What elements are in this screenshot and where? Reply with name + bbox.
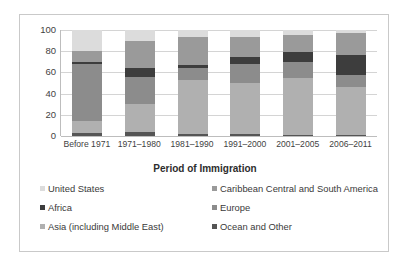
legend-item[interactable]: Caribbean Central and South America (212, 183, 378, 194)
bar-column[interactable] (178, 30, 208, 136)
bar-segment[interactable] (336, 87, 366, 135)
legend-label: Asia (including Middle East) (48, 221, 164, 232)
bar-segment[interactable] (230, 83, 260, 134)
bar-segment[interactable] (230, 134, 260, 136)
y-axis-tick: 80 (45, 46, 56, 56)
chart-legend: United StatesCaribbean Central and South… (36, 183, 380, 241)
bar-column[interactable] (230, 30, 260, 136)
y-axis-tick: 20 (45, 110, 56, 120)
bar-segment[interactable] (283, 78, 313, 135)
bar-segment[interactable] (283, 62, 313, 78)
bar-column[interactable] (336, 30, 366, 136)
bar-segment[interactable] (178, 68, 208, 80)
x-axis-tick: 2001–2005 (275, 139, 321, 153)
bar-column[interactable] (72, 30, 102, 136)
bar-segment[interactable] (72, 30, 102, 51)
bar-segment[interactable] (125, 41, 155, 69)
bar-segment[interactable] (178, 80, 208, 134)
plot-area-wrapper: 100806040200 (20, 15, 390, 147)
legend-label: Europe (220, 202, 250, 213)
legend-label: Ocean and Other (220, 221, 292, 232)
bar-segment[interactable] (178, 134, 208, 136)
legend-item[interactable]: Africa (40, 202, 72, 213)
y-axis-tick: 0 (51, 131, 56, 141)
bar-segment[interactable] (230, 37, 260, 56)
x-axis-title: Period of Immigration (20, 163, 390, 174)
bar-segment[interactable] (336, 55, 366, 74)
legend-item[interactable]: Europe (212, 202, 250, 213)
bar-segment[interactable] (125, 77, 155, 105)
x-axis-tick-labels: Before 19711971–19801981–19901991–200020… (60, 139, 377, 153)
bar-segment[interactable] (336, 33, 366, 55)
legend-swatch-icon (40, 186, 45, 191)
legend-swatch-icon (40, 205, 45, 210)
legend-item[interactable]: Ocean and Other (212, 221, 292, 232)
bar-segment[interactable] (230, 30, 260, 37)
bar-segment[interactable] (283, 35, 313, 52)
bar-segment[interactable] (72, 133, 102, 136)
y-axis-tick-labels: 100806040200 (26, 24, 56, 136)
legend-swatch-icon (212, 224, 217, 229)
bar-column[interactable] (283, 30, 313, 136)
bar-segment[interactable] (283, 52, 313, 62)
bar-segment[interactable] (178, 37, 208, 65)
bar-segment[interactable] (125, 132, 155, 136)
y-axis-tick: 40 (45, 89, 56, 99)
bar-segment[interactable] (72, 64, 102, 121)
bar-segment[interactable] (336, 75, 366, 88)
bar-segment[interactable] (125, 68, 155, 76)
plot-area (60, 30, 377, 136)
legend-swatch-icon (40, 224, 45, 229)
y-axis-tick: 100 (40, 25, 56, 35)
legend-item[interactable]: Asia (including Middle East) (40, 221, 164, 232)
bar-segment[interactable] (178, 30, 208, 37)
x-axis-tick: 1981–1990 (169, 139, 215, 153)
legend-swatch-icon (212, 186, 217, 191)
x-axis-tick: 1991–2000 (222, 139, 268, 153)
x-axis-tick: Before 1971 (63, 139, 109, 153)
bar-segment[interactable] (125, 104, 155, 132)
bar-segment[interactable] (230, 64, 260, 83)
bar-segment[interactable] (72, 121, 102, 133)
legend-label: Africa (48, 202, 72, 213)
legend-label: Caribbean Central and South America (220, 183, 378, 194)
legend-swatch-icon (212, 205, 217, 210)
legend-label: United States (48, 183, 104, 194)
bar-segment[interactable] (125, 30, 155, 41)
legend-item[interactable]: United States (40, 183, 104, 194)
x-axis-tick: 1971–1980 (116, 139, 162, 153)
bar-segment[interactable] (283, 135, 313, 136)
x-axis-tick: 2006–2011 (328, 139, 374, 153)
bar-segment[interactable] (72, 51, 102, 62)
y-axis-tick: 60 (45, 68, 56, 78)
bar-segment[interactable] (230, 57, 260, 64)
gridline (61, 136, 377, 137)
chart-frame: 100806040200 Before 19711971–19801981–19… (19, 14, 389, 252)
bar-column[interactable] (125, 30, 155, 136)
bar-series-container (61, 30, 377, 136)
bar-segment[interactable] (336, 135, 366, 136)
